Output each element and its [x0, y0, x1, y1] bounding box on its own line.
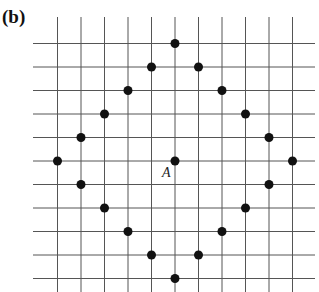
lattice-point	[265, 180, 274, 189]
lattice-point	[218, 86, 227, 95]
lattice-point	[241, 204, 250, 213]
lattice-point	[147, 251, 156, 260]
lattice-point	[171, 39, 180, 48]
lattice-point	[147, 63, 156, 72]
lattice-point	[194, 63, 203, 72]
lattice-point	[218, 227, 227, 236]
lattice-point	[53, 157, 62, 166]
lattice-point	[100, 204, 109, 213]
lattice-point	[265, 133, 274, 142]
lattice-point	[77, 133, 86, 142]
lattice-point	[241, 110, 250, 119]
lattice-point	[171, 274, 180, 283]
lattice-point	[124, 227, 133, 236]
lattice-point	[77, 180, 86, 189]
center-point-label: A	[161, 165, 171, 180]
lattice-point	[124, 86, 133, 95]
center-point-a	[171, 157, 180, 166]
lattice-grid: A	[0, 0, 319, 292]
lattice-point	[100, 110, 109, 119]
lattice-point	[288, 157, 297, 166]
lattice-point	[194, 251, 203, 260]
